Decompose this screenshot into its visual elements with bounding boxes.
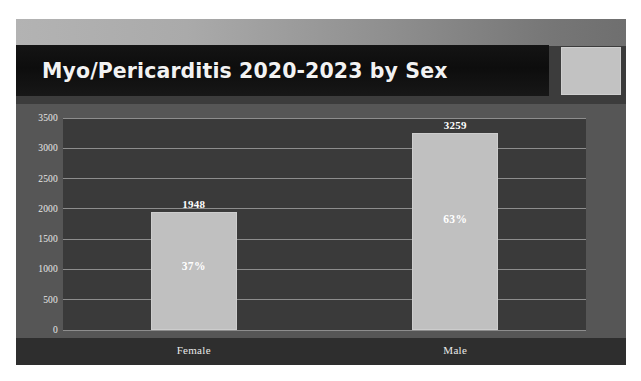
gridline (63, 269, 586, 270)
y-axis-tick-mark (63, 269, 71, 270)
y-axis-tick-mark (63, 148, 71, 149)
y-axis-tick-label: 3500 (38, 113, 58, 123)
bar-value-label: 3259 (412, 119, 498, 131)
title-plate: Myo/Pericarditis 2020-2023 by Sex (16, 45, 549, 96)
y-axis-tick-mark (63, 178, 71, 179)
gridline (63, 299, 586, 300)
y-axis-tick-mark (63, 239, 71, 240)
y-axis-tick-mark (63, 330, 71, 331)
y-axis-tick-label: 0 (53, 325, 58, 335)
gridline (63, 330, 586, 331)
gridline (63, 118, 586, 119)
y-axis-tick-mark (63, 118, 71, 119)
y-axis-tick-mark (63, 208, 71, 209)
clipped-header-text-strip (0, 0, 641, 12)
logo-placeholder-box (561, 47, 621, 95)
y-axis-tick-mark (63, 299, 71, 300)
y-axis-tick-label: 500 (43, 295, 58, 305)
y-axis-tick-label: 1500 (38, 234, 58, 244)
y-axis-tick-label: 2500 (38, 174, 58, 184)
y-axis-tick-label: 3000 (38, 143, 58, 153)
plot-region: 0500100015002000250030003500 37%194863%3… (16, 104, 626, 338)
category-label-male: Male (395, 344, 515, 356)
category-axis: FemaleMale (16, 338, 626, 365)
y-axis: 0500100015002000250030003500 (16, 118, 58, 330)
gridline (63, 148, 586, 149)
gridline (63, 178, 586, 179)
y-axis-tick-label: 2000 (38, 204, 58, 214)
gridline (63, 208, 586, 209)
bar-male[interactable]: 63% (412, 133, 498, 330)
bar-percent-label: 63% (413, 213, 497, 225)
header-gradient-band (16, 19, 626, 46)
page-title: Myo/Pericarditis 2020-2023 by Sex (42, 59, 447, 83)
plot-panel: 37%194863%3259 (63, 118, 586, 330)
bar-value-label: 1948 (151, 198, 237, 210)
gridline (63, 239, 586, 240)
y-axis-tick-label: 1000 (38, 264, 58, 274)
bar-female[interactable]: 37% (151, 212, 237, 330)
chart-figure: Myo/Pericarditis 2020-2023 by Sex 050010… (16, 19, 626, 365)
bar-percent-label: 37% (152, 260, 236, 272)
category-label-female: Female (134, 344, 254, 356)
